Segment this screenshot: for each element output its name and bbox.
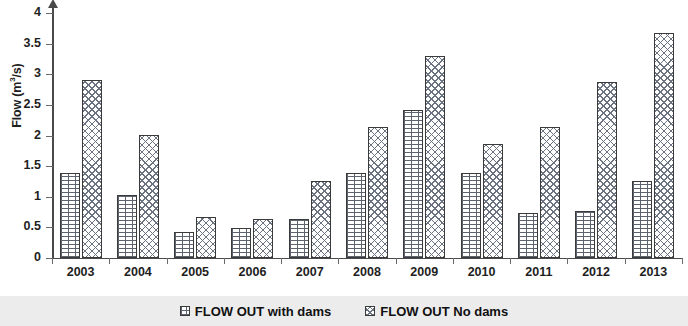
- bar-group: [281, 13, 338, 258]
- bar-group: [510, 13, 567, 258]
- bar: [196, 217, 216, 258]
- bar-group: [167, 13, 224, 258]
- y-axis-arrow-icon: [48, 0, 58, 8]
- x-tick: [567, 258, 568, 264]
- x-tick: [396, 258, 397, 264]
- y-tick-label: 0: [34, 250, 41, 264]
- bar: [425, 56, 445, 258]
- x-tick: [52, 258, 53, 264]
- bar-group: [338, 13, 395, 258]
- legend-label-series-1: FLOW OUT No dams: [380, 304, 508, 319]
- bar: [597, 82, 617, 258]
- bar: [403, 110, 423, 258]
- x-tick: [453, 258, 454, 264]
- x-tick: [338, 258, 339, 264]
- bar: [117, 195, 137, 258]
- bar: [575, 211, 595, 258]
- bar: [654, 33, 674, 258]
- y-tick-label: 1.5: [24, 158, 41, 172]
- x-axis-label-2009: 2009: [396, 265, 453, 279]
- x-tick: [682, 258, 683, 264]
- y-tick-label: 2.5: [24, 97, 41, 111]
- bar: [60, 173, 80, 258]
- x-axis-line: [52, 258, 682, 259]
- bar: [368, 127, 388, 258]
- x-tick: [109, 258, 110, 264]
- x-axis-label-2005: 2005: [167, 265, 224, 279]
- x-axis-label-2012: 2012: [567, 265, 624, 279]
- y-tick-label: 0.5: [24, 219, 41, 233]
- bar: [174, 232, 194, 258]
- bar: [289, 219, 309, 258]
- bar-group: [625, 13, 682, 258]
- legend-item-flow-out-no-dams[interactable]: FLOW OUT No dams: [365, 304, 508, 319]
- x-axis-label-2010: 2010: [453, 265, 510, 279]
- bar: [346, 173, 366, 258]
- bar: [518, 213, 538, 258]
- bar-group: [224, 13, 281, 258]
- x-axis-label-2007: 2007: [281, 265, 338, 279]
- bar-group: [567, 13, 624, 258]
- y-tick-label: 3: [34, 66, 41, 80]
- x-tick: [224, 258, 225, 264]
- chart-legend: FLOW OUT with dams FLOW OUT No dams: [0, 296, 688, 326]
- x-axis-label-2006: 2006: [224, 265, 281, 279]
- bar: [231, 228, 251, 258]
- bar: [253, 219, 273, 258]
- bar: [540, 127, 560, 258]
- y-tick-label: 2: [34, 128, 41, 142]
- x-axis-label-2003: 2003: [52, 265, 109, 279]
- x-tick: [167, 258, 168, 264]
- legend-swatch-icon-series-0: [180, 306, 190, 316]
- bar: [632, 181, 652, 258]
- x-axis-label-2008: 2008: [338, 265, 395, 279]
- legend-label-series-0: FLOW OUT with dams: [195, 304, 332, 319]
- bar: [139, 135, 159, 258]
- plot-area: 00.511.522.533.54 2003200420052006200720…: [52, 13, 682, 258]
- x-axis-label-2013: 2013: [625, 265, 682, 279]
- legend-item-flow-out-with-dams[interactable]: FLOW OUT with dams: [180, 304, 332, 319]
- bar-group: [52, 13, 109, 258]
- x-axis-label-2011: 2011: [510, 265, 567, 279]
- bar: [311, 181, 331, 258]
- y-tick-label: 3.5: [24, 36, 41, 50]
- bar: [461, 173, 481, 258]
- bar-group: [453, 13, 510, 258]
- y-tick-label: 4: [34, 5, 41, 19]
- x-tick: [625, 258, 626, 264]
- legend-swatch-icon-series-1: [365, 306, 375, 316]
- bar: [483, 144, 503, 258]
- bar-group: [396, 13, 453, 258]
- x-axis-label-2004: 2004: [109, 265, 166, 279]
- bar-chart: Flow (m3/s) 00.511.522.533.54 2003200420…: [0, 0, 688, 326]
- x-tick: [281, 258, 282, 264]
- y-axis-title: Flow (m3/s): [8, 36, 23, 156]
- bar: [82, 80, 102, 258]
- y-tick-label: 1: [34, 189, 41, 203]
- x-tick: [510, 258, 511, 264]
- bar-group: [109, 13, 166, 258]
